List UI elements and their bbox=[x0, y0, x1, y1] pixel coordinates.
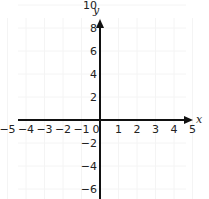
x-tick-labels: −5−4−3−2−1012345 bbox=[0, 123, 196, 136]
x-tick-label: 1 bbox=[115, 123, 122, 136]
x-tick-label: −1 bbox=[73, 123, 89, 136]
y-tick-label: −6 bbox=[81, 183, 97, 196]
x-tick-label: 2 bbox=[134, 123, 141, 136]
y-tick-label: 10 bbox=[83, 0, 97, 12]
y-axis-arrow-icon bbox=[96, 19, 104, 28]
y-tick-labels: 12108642−2−4−6−8 bbox=[81, 0, 97, 199]
y-tick-label: 4 bbox=[90, 68, 97, 81]
y-tick-label: 6 bbox=[90, 45, 97, 58]
x-tick-label: 3 bbox=[152, 123, 159, 136]
y-tick-label: −2 bbox=[81, 137, 97, 150]
x-tick-label: −5 bbox=[0, 123, 16, 136]
x-tick-label: −3 bbox=[36, 123, 52, 136]
x-tick-label: −2 bbox=[55, 123, 71, 136]
x-tick-label: 4 bbox=[171, 123, 178, 136]
y-tick-label: 2 bbox=[90, 91, 97, 104]
x-tick-label: 5 bbox=[189, 123, 196, 136]
coordinate-plane: x y −5−4−3−2−1012345 12108642−2−4−6−8 bbox=[0, 0, 209, 199]
y-tick-label: 8 bbox=[90, 22, 97, 35]
x-tick-label: −4 bbox=[18, 123, 34, 136]
y-tick-label: −4 bbox=[81, 160, 97, 173]
x-axis-label: x bbox=[196, 113, 203, 126]
x-tick-label: 0 bbox=[93, 123, 100, 136]
